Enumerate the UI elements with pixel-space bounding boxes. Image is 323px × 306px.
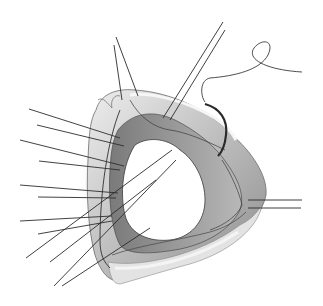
suture-thread	[202, 42, 302, 102]
valve-illustration	[0, 0, 323, 306]
suture-line	[116, 37, 138, 96]
suture-line	[163, 22, 223, 118]
illustration-canvas	[0, 0, 323, 306]
suture-line	[170, 30, 225, 120]
